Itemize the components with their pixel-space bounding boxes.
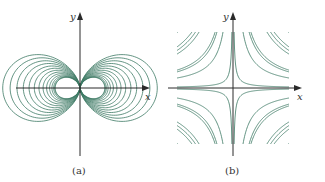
- level-curve: [272, 140, 293, 168]
- level-curve: [173, 9, 204, 50]
- level-curve: [262, 9, 293, 50]
- y-axis-label-a: y: [69, 11, 76, 22]
- level-curve: [173, 105, 221, 168]
- y-axis-arrow-icon: [77, 12, 83, 20]
- level-curve: [173, 8, 221, 71]
- level-curve: [173, 9, 194, 37]
- level-curve: [173, 140, 194, 168]
- level-curve: [173, 28, 232, 87]
- y-axis-label-b: y: [222, 11, 229, 22]
- caption-b: (b): [225, 165, 239, 176]
- level-curve: [173, 8, 192, 33]
- level-curve: [245, 103, 294, 166]
- level-curve: [173, 126, 204, 167]
- level-curve: [173, 103, 222, 166]
- level-curve: [234, 89, 293, 148]
- figure: x y (a) x y (b): [0, 0, 325, 182]
- level-curve: [246, 105, 294, 168]
- level-curve: [275, 143, 294, 168]
- level-curve: [246, 8, 294, 71]
- level-curve: [234, 28, 293, 87]
- level-curve: [173, 89, 232, 148]
- level-curve: [245, 10, 294, 73]
- panel-b: x y (b): [168, 8, 303, 176]
- panel-a: x y (a): [3, 11, 158, 176]
- level-curve: [173, 143, 192, 168]
- level-curve: [272, 9, 293, 37]
- level-curve: [262, 126, 293, 167]
- x-axis-label-a: x: [145, 91, 151, 102]
- level-curve: [275, 8, 294, 33]
- level-curve: [173, 10, 222, 73]
- y-axis-arrow-icon: [230, 12, 236, 20]
- x-axis-label-b: x: [297, 91, 303, 102]
- caption-a: (a): [72, 165, 86, 176]
